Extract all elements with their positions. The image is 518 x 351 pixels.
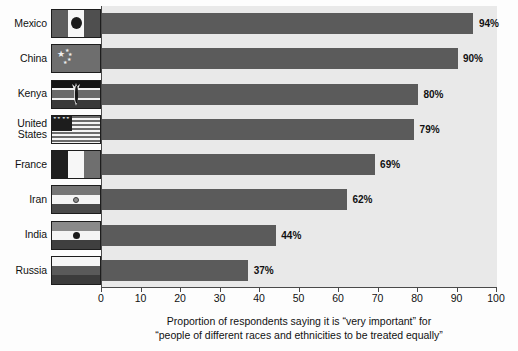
- x-tick-label-90: 90: [451, 292, 463, 304]
- category-label-russia: Russia: [16, 265, 52, 277]
- bar-value-france: 69%: [380, 154, 400, 175]
- x-tick-label-80: 80: [411, 292, 423, 304]
- bar-kenya: [102, 84, 418, 105]
- x-tick-label-50: 50: [293, 292, 305, 304]
- flag-france-icon: [51, 150, 101, 179]
- category-row-china: China ★ ★ ★ ★ ★: [0, 41, 101, 76]
- bar-india: [102, 225, 276, 246]
- bar-value-kenya: 80%: [424, 84, 444, 105]
- bar-value-china: 90%: [463, 48, 483, 69]
- bar-mexico: [102, 13, 473, 34]
- bar-value-india: 44%: [281, 225, 301, 246]
- flag-kenya-icon: [51, 80, 101, 109]
- flag-china-icon: ★ ★ ★ ★ ★: [51, 44, 101, 73]
- flag-united-states-icon: ★★★★★★★★★★★★★★★★★★★★★★★★★★★★★★★★★★★★★★★★…: [51, 115, 101, 144]
- category-row-russia: Russia: [0, 253, 101, 288]
- bar-value-united-states: 79%: [420, 119, 440, 140]
- category-label-china: China: [20, 53, 51, 65]
- flag-mexico-icon: [51, 9, 101, 38]
- category-row-france: France: [0, 147, 101, 182]
- category-row-india: India: [0, 218, 101, 253]
- x-tick-label-10: 10: [135, 292, 147, 304]
- x-tick-label-40: 40: [253, 292, 265, 304]
- x-axis-title-line-2: “people of different races and ethniciti…: [101, 328, 497, 342]
- category-label-france: France: [15, 159, 51, 171]
- bar-united-states: [102, 119, 414, 140]
- x-axis-title: Proportion of respondents saying it is “…: [101, 314, 497, 342]
- category-row-kenya: Kenya: [0, 77, 101, 112]
- category-row-united-states: United States ★★★★★★★★★★★★★★★★★★★★★★★★★★…: [0, 112, 101, 147]
- flag-iran-icon: [51, 185, 101, 214]
- bar-china: [102, 48, 458, 69]
- x-tick-label-70: 70: [372, 292, 384, 304]
- plot-area: 94% 90% 80% 79% 69% 62% 44% 37%: [101, 6, 497, 288]
- category-row-iran: Iran: [0, 182, 101, 217]
- x-tick-label-100: 100: [487, 292, 505, 304]
- category-row-mexico: Mexico: [0, 6, 101, 41]
- bar-russia: [102, 260, 248, 281]
- category-label-kenya: Kenya: [18, 88, 51, 100]
- x-tick-label-20: 20: [174, 292, 186, 304]
- category-label-india: India: [25, 229, 51, 241]
- category-label-iran: Iran: [29, 194, 51, 206]
- flag-india-icon: [51, 221, 101, 250]
- category-axis: Mexico China ★ ★ ★ ★ ★ Kenya: [0, 6, 101, 288]
- bar-chart-figure: Mexico China ★ ★ ★ ★ ★ Kenya: [0, 0, 518, 351]
- x-tick-label-0: 0: [98, 292, 104, 304]
- x-axis-title-line-1: Proportion of respondents saying it is “…: [101, 314, 497, 328]
- category-label-united-states: United States: [17, 118, 51, 141]
- x-axis: 0 10 20 30 40 50 60 70 80 90 100: [101, 288, 497, 308]
- flag-russia-icon: [51, 256, 101, 285]
- x-tick-label-30: 30: [214, 292, 226, 304]
- bar-value-russia: 37%: [254, 260, 274, 281]
- x-tick-label-60: 60: [332, 292, 344, 304]
- bar-iran: [102, 189, 347, 210]
- bar-value-mexico: 94%: [479, 13, 499, 34]
- bar-france: [102, 154, 375, 175]
- category-label-mexico: Mexico: [14, 18, 51, 30]
- bar-value-iran: 62%: [352, 189, 372, 210]
